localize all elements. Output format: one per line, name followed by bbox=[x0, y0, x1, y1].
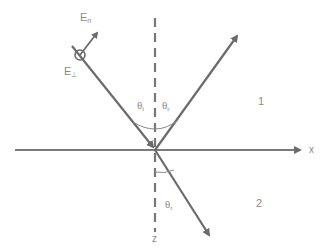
e-normal-vector bbox=[80, 33, 97, 55]
incident-ray bbox=[72, 46, 153, 147]
region-1-label: 1 bbox=[258, 96, 264, 107]
transmitted-angle-arc bbox=[155, 170, 174, 173]
e-normal-label: En bbox=[80, 12, 91, 24]
transmitted-ray bbox=[155, 150, 209, 235]
transmitted-angle-label: θt bbox=[165, 199, 172, 212]
region-2-label: 2 bbox=[256, 198, 262, 209]
reflection-refraction-diagram bbox=[0, 0, 328, 251]
e-perp-label: E⊥ bbox=[64, 66, 77, 78]
z-axis-label: z bbox=[152, 234, 157, 244]
incident-angle-label: θi bbox=[137, 100, 144, 113]
reflected-ray bbox=[155, 36, 237, 150]
x-axis-label: x bbox=[309, 145, 314, 155]
reflected-angle-label: θr bbox=[162, 100, 170, 113]
